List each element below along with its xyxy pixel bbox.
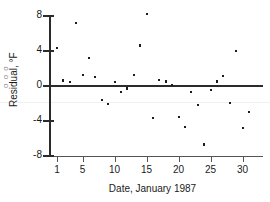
data-point [152, 117, 154, 119]
y-tick-inner-4 [49, 50, 54, 52]
data-point [94, 76, 96, 78]
data-point [171, 84, 173, 86]
data-point [120, 91, 122, 93]
data-point [248, 111, 250, 113]
data-point [114, 81, 116, 83]
data-point [190, 91, 192, 93]
x-tick-label-15: 15 [135, 164, 159, 175]
y-tick-inner--4 [49, 120, 54, 122]
x-tick-label-5: 5 [71, 164, 95, 175]
x-tick-label-20: 20 [167, 164, 191, 175]
x-axis-spine [49, 156, 263, 157]
data-point [229, 102, 231, 104]
x-tick-5 [83, 157, 84, 162]
data-point [242, 127, 244, 129]
data-point [235, 50, 237, 52]
data-point [62, 79, 64, 81]
x-tick-10 [115, 157, 116, 162]
zero-reference-line [49, 85, 263, 87]
data-point [139, 44, 141, 46]
x-tick-label-25: 25 [199, 164, 223, 175]
data-point [133, 74, 135, 76]
data-point [146, 13, 148, 15]
data-point [75, 22, 77, 24]
y-tick-label-4: 4 [20, 44, 42, 55]
data-point [101, 99, 103, 101]
data-point [222, 75, 224, 77]
data-point [210, 89, 212, 91]
y-tick-label-8: 8 [20, 9, 42, 20]
x-tick-20 [179, 157, 180, 162]
x-tick-1 [57, 157, 58, 162]
data-point [56, 47, 58, 49]
y-tick-inner--8 [49, 155, 54, 157]
data-point [197, 104, 199, 106]
x-tick-30 [243, 157, 244, 162]
data-point [158, 79, 160, 81]
data-point [165, 80, 167, 82]
x-tick-label-30: 30 [231, 164, 255, 175]
x-tick-label-1: 1 [45, 164, 69, 175]
data-point [69, 81, 71, 83]
y-tick-label--8: -8 [20, 149, 42, 160]
data-point [184, 126, 186, 128]
data-point [88, 57, 90, 59]
data-point [216, 80, 218, 82]
x-tick-15 [147, 157, 148, 162]
y-tick-inner-8 [49, 15, 54, 17]
y-tick-label--4: -4 [20, 114, 42, 125]
y-tick-label-0: 0 [20, 79, 42, 90]
x-tick-label-10: 10 [103, 164, 127, 175]
data-point [82, 74, 84, 76]
data-point [203, 143, 205, 145]
data-point [178, 116, 180, 118]
residual-scatter-figure: o o o Residual, °F Date, January 1987 84… [0, 0, 270, 202]
x-tick-25 [211, 157, 212, 162]
data-point [107, 103, 109, 105]
data-point [126, 87, 128, 89]
y-tick-inner-0 [49, 85, 54, 87]
